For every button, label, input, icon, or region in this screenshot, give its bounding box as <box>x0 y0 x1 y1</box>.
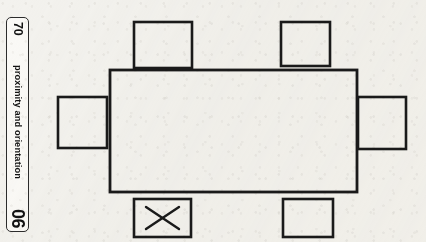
table-shape <box>110 70 357 192</box>
diagram-canvas <box>0 0 426 242</box>
chapter-number: 06 <box>9 209 27 228</box>
x-mark-icon <box>146 207 179 229</box>
seat-bottom-right[interactable] <box>283 199 333 237</box>
page-tab: 70 proximity and orientation 06 <box>6 17 29 232</box>
seat-top-right[interactable] <box>281 22 330 66</box>
section-label: proximity and orientation <box>13 65 22 179</box>
seat-top-left[interactable] <box>134 22 192 68</box>
seat-right[interactable] <box>358 97 406 149</box>
seat-left[interactable] <box>58 97 107 148</box>
page-number: 70 <box>11 22 24 36</box>
